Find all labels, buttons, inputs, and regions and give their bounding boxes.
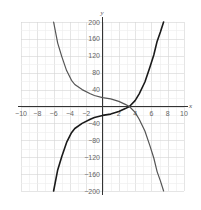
- y-tick-label: −40: [88, 120, 100, 127]
- axes: [18, 17, 188, 195]
- y-tick-label: −120: [84, 154, 100, 161]
- x-tick-label: 10: [180, 110, 188, 117]
- chart: −10−8−6−4−2246810 2001601208040−40−80−12…: [0, 0, 201, 210]
- x-axis-label: x: [188, 102, 193, 110]
- y-tick-label: 40: [92, 86, 100, 93]
- y-tick-label: −160: [84, 171, 100, 178]
- y-tick-label: −200: [84, 188, 100, 195]
- y-tick-label: 200: [88, 19, 100, 26]
- x-tick-label: −2: [82, 110, 90, 117]
- x-tick-label: −10: [15, 110, 27, 117]
- y-tick-label: −80: [88, 137, 100, 144]
- x-tick-label: −4: [66, 110, 74, 117]
- y-tick-label: 120: [88, 52, 100, 59]
- y-axis-label: y: [99, 9, 104, 17]
- x-tick-label: −8: [33, 110, 41, 117]
- x-tick-label: 6: [149, 110, 153, 117]
- x-tick-label: −6: [50, 110, 58, 117]
- y-tick-label: 80: [92, 69, 100, 76]
- x-tick-label: 8: [166, 110, 170, 117]
- y-tick-label: 160: [88, 35, 100, 42]
